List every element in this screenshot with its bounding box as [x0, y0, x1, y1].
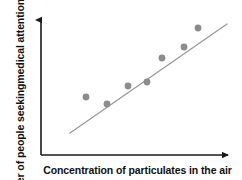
y-axis-label-line-2: medical attention for asthma	[14, 0, 26, 84]
data-point	[159, 55, 166, 62]
data-point	[104, 101, 111, 108]
data-point	[144, 79, 151, 86]
y-axis-label: Number of people seeking medical attenti…	[0, 0, 40, 155]
trend-line	[70, 24, 227, 133]
y-axis-label-line-1: Number of people seeking	[14, 84, 26, 180]
data-point	[125, 83, 132, 90]
scatter-chart: Concentration of particulates in the air…	[0, 0, 242, 180]
x-axis-label-text: Concentration of particulates in the air	[43, 164, 232, 176]
data-points	[83, 25, 202, 108]
x-axis-label: Concentration of particulates in the air	[41, 160, 234, 178]
data-point	[181, 44, 188, 51]
data-point	[83, 94, 90, 101]
data-point	[195, 25, 202, 32]
